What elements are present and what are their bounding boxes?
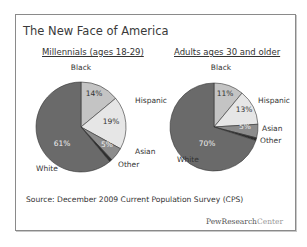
data-label-asian: 5% bbox=[101, 140, 113, 149]
category-label-hispanic: Hispanic bbox=[135, 96, 167, 105]
data-label-white: 61% bbox=[54, 139, 71, 148]
category-label-other: Other bbox=[118, 160, 140, 169]
category-label-white: White bbox=[36, 164, 58, 173]
data-label-white: 70% bbox=[199, 139, 216, 148]
category-label-black: Black bbox=[71, 63, 92, 72]
data-label-hispanic: 19% bbox=[103, 117, 120, 126]
category-label-hispanic: Hispanic bbox=[258, 96, 290, 105]
category-label-white: White bbox=[177, 155, 199, 164]
data-label-hispanic: 13% bbox=[236, 105, 253, 114]
pie-adults: Black11%Hispanic13%Asian5%OtherWhite70% bbox=[170, 63, 290, 171]
pie-millennials: Black14%Hispanic19%Asian5%OtherWhite61% bbox=[36, 63, 167, 173]
data-label-asian: 5% bbox=[239, 122, 251, 131]
category-label-other: Other bbox=[260, 136, 282, 145]
data-label-black: 11% bbox=[217, 89, 234, 98]
category-label-asian: Asian bbox=[135, 147, 156, 156]
pie-charts: Black14%Hispanic19%Asian5%OtherWhite61% … bbox=[0, 0, 307, 247]
data-label-black: 14% bbox=[86, 89, 103, 98]
category-label-asian: Asian bbox=[262, 124, 283, 133]
category-label-black: Black bbox=[211, 63, 232, 72]
